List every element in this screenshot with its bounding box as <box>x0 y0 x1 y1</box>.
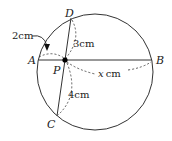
label-b: B <box>155 54 164 67</box>
dash-pa <box>39 54 64 58</box>
chord-diagram: D A P B C 2cm 3cm 4cm xcm <box>0 0 172 141</box>
point-p <box>62 57 67 62</box>
arrowhead-icon <box>44 44 50 51</box>
measure-pb-unit: cm <box>106 68 122 79</box>
label-p: P <box>52 64 61 77</box>
measure-pc: 4cm <box>68 89 90 100</box>
measure-pb: xcm <box>98 68 121 79</box>
label-d: D <box>64 7 74 20</box>
label-a: A <box>27 54 36 67</box>
dash-pb-right <box>128 62 151 70</box>
dash-pb-left <box>67 62 95 74</box>
measure-pa: 2cm <box>12 30 34 41</box>
measure-pd: 3cm <box>73 38 95 49</box>
measure-pb-var: x <box>98 68 104 79</box>
label-c: C <box>47 118 56 131</box>
